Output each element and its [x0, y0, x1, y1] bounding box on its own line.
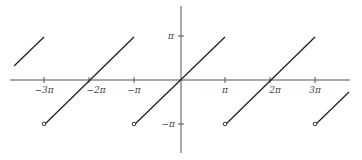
x-tick-label: −3π [34, 85, 54, 95]
sawtooth-graph: −3π −2π −π π 2π 3π π −π [0, 0, 362, 160]
y-tick-label: π [167, 31, 175, 41]
x-tick-label: 2π [268, 85, 282, 95]
x-tick-label: 3π [309, 85, 322, 95]
y-tick-label: −π [162, 119, 177, 129]
x-tick-label: −π [127, 85, 142, 95]
x-tick-label: π [221, 85, 229, 95]
x-tick-label: −2π [86, 85, 106, 95]
